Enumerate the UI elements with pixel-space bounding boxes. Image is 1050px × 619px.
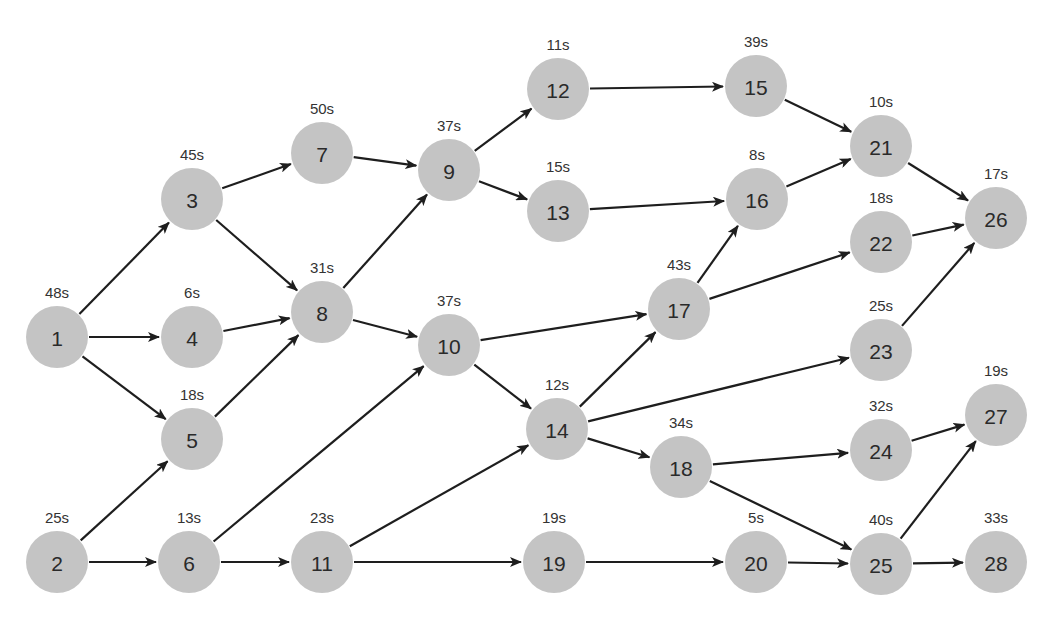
node-duration-label: 25s: [869, 297, 893, 314]
edge-23-to-26: [902, 243, 974, 326]
edge-13-to-16: [590, 201, 724, 209]
edge-15-to-21: [785, 100, 851, 132]
edge-20-to-25: [788, 563, 848, 564]
edge-18-to-24: [713, 453, 848, 465]
node-duration-label: 32s: [869, 397, 893, 414]
node-3: 345s: [161, 146, 223, 230]
node-8: 831s: [291, 259, 353, 343]
node-19: 1919s: [523, 509, 585, 593]
node-id-label: 1: [51, 327, 63, 350]
node-duration-label: 12s: [545, 376, 569, 393]
node-7: 750s: [291, 100, 353, 184]
node-id-label: 18: [669, 457, 692, 480]
edge-14-to-17: [580, 332, 656, 407]
edge-4-to-8: [223, 318, 289, 331]
node-duration-label: 23s: [310, 509, 334, 526]
node-id-label: 13: [546, 201, 569, 224]
node-duration-label: 13s: [177, 509, 201, 526]
edge-22-to-26: [912, 225, 963, 236]
node-15: 1539s: [725, 33, 787, 117]
node-id-label: 3: [186, 189, 198, 212]
node-id-label: 14: [545, 419, 569, 442]
node-id-label: 28: [984, 552, 1007, 575]
node-id-label: 16: [745, 189, 768, 212]
node-duration-label: 50s: [310, 100, 334, 117]
edge-10-to-17: [481, 314, 647, 340]
edge-17-to-22: [709, 252, 849, 299]
node-27: 2719s: [965, 362, 1027, 446]
node-id-label: 9: [443, 160, 455, 183]
node-9: 937s: [418, 117, 480, 201]
node-duration-label: 6s: [184, 284, 200, 301]
node-id-label: 5: [186, 429, 198, 452]
node-id-label: 15: [744, 76, 767, 99]
node-id-label: 26: [984, 208, 1007, 231]
edge-25-to-28: [913, 563, 963, 564]
node-duration-label: 48s: [45, 284, 69, 301]
node-10: 1037s: [418, 292, 480, 376]
node-id-label: 11: [311, 552, 333, 575]
node-23: 2325s: [850, 297, 912, 381]
node-duration-label: 37s: [437, 292, 461, 309]
node-6: 613s: [158, 509, 220, 593]
node-duration-label: 33s: [984, 509, 1008, 526]
node-duration-label: 18s: [180, 386, 204, 403]
node-14: 1412s: [526, 376, 588, 460]
node-id-label: 21: [869, 136, 892, 159]
node-duration-label: 45s: [180, 146, 204, 163]
edge-9-to-13: [479, 181, 527, 199]
node-duration-label: 18s: [869, 189, 893, 206]
edge-21-to-26: [908, 163, 968, 201]
edge-24-to-27: [912, 425, 965, 441]
node-24: 2432s: [850, 397, 912, 481]
edge-25-to-27: [901, 441, 976, 539]
node-13: 1315s: [527, 158, 589, 242]
node-duration-label: 40s: [869, 511, 893, 528]
node-28: 2833s: [965, 509, 1027, 593]
node-id-label: 22: [869, 232, 892, 255]
node-20: 205s: [725, 509, 787, 593]
node-id-label: 12: [546, 79, 569, 102]
edge-11-to-14: [350, 445, 529, 546]
edge-8-to-9: [343, 195, 427, 289]
edge-10-to-14: [474, 365, 531, 409]
node-4: 46s: [161, 284, 223, 368]
edge-3-to-7: [222, 164, 291, 188]
node-2: 225s: [26, 509, 88, 593]
node-duration-label: 11s: [546, 36, 569, 53]
edge-1-to-5: [83, 356, 166, 419]
node-id-label: 23: [869, 340, 892, 363]
node-duration-label: 31s: [310, 259, 334, 276]
node-id-label: 2: [51, 552, 63, 575]
node-22: 2218s: [850, 189, 912, 273]
node-duration-label: 39s: [744, 33, 768, 50]
node-duration-label: 25s: [45, 509, 69, 526]
node-18: 1834s: [650, 414, 712, 498]
node-id-label: 17: [667, 299, 690, 322]
node-id-label: 20: [744, 552, 767, 575]
node-duration-label: 37s: [437, 117, 461, 134]
edge-7-to-9: [354, 157, 417, 165]
node-5: 518s: [161, 386, 223, 470]
edge-12-to-15: [590, 87, 723, 89]
edge-14-to-23: [588, 358, 849, 422]
node-1: 148s: [26, 284, 88, 368]
node-12: 1211s: [527, 36, 589, 120]
node-duration-label: 15s: [546, 158, 570, 175]
node-21: 2110s: [850, 93, 912, 177]
node-id-label: 4: [186, 327, 198, 350]
node-25: 2540s: [850, 511, 912, 595]
node-duration-label: 19s: [542, 509, 566, 526]
edge-18-to-25: [710, 481, 852, 550]
node-duration-label: 17s: [984, 165, 1008, 182]
task-dependency-graph: 148s225s345s46s518s613s750s831s937s1037s…: [0, 0, 1050, 619]
edge-2-to-5: [81, 461, 168, 540]
node-id-label: 10: [437, 335, 460, 358]
node-26: 2617s: [965, 165, 1027, 249]
edge-8-to-10: [353, 320, 417, 337]
node-id-label: 19: [542, 552, 565, 575]
edge-1-to-3: [79, 223, 168, 315]
edge-9-to-12: [475, 109, 532, 151]
node-id-label: 6: [183, 552, 195, 575]
node-17: 1743s: [648, 256, 710, 340]
